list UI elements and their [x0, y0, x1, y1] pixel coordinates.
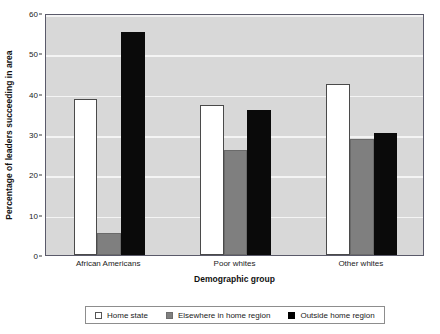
chart-legend: Home stateElsewhere in home regionOutsid…: [85, 306, 385, 324]
bar: [374, 133, 398, 255]
y-axis-tick-mark: [39, 14, 42, 15]
y-axis-tick-label: 50: [29, 50, 38, 59]
legend-entry: Outside home region: [288, 311, 374, 320]
y-axis-tick-label: 30: [29, 131, 38, 140]
legend-label: Home state: [107, 311, 148, 320]
bar-group: [326, 15, 397, 255]
y-axis-tick-labels: 0102030405060: [18, 14, 42, 256]
bar: [350, 139, 374, 255]
y-axis-tick-mark: [39, 215, 42, 216]
y-axis-tick-label: 40: [29, 90, 38, 99]
x-axis-tick-label: African Americans: [76, 259, 140, 268]
legend-label: Elsewhere in home region: [178, 311, 271, 320]
x-axis-tick-label: Other whites: [338, 259, 383, 268]
x-axis-tick-label: Poor whites: [214, 259, 256, 268]
legend-entry: Elsewhere in home region: [166, 311, 271, 320]
x-axis-tick-labels: African AmericansPoor whitesOther whites: [45, 259, 424, 273]
legend-swatch-icon: [288, 312, 295, 319]
y-axis-tick-mark: [39, 54, 42, 55]
y-axis-tick-label: 20: [29, 171, 38, 180]
bar: [247, 110, 271, 255]
y-axis-tick-mark: [39, 94, 42, 95]
bar: [121, 32, 145, 255]
y-axis-tick-label: 0: [34, 252, 38, 261]
y-axis-title-text: Percentage of leaders succeeding in area: [4, 50, 14, 219]
legend-entry: Home state: [95, 311, 148, 320]
legend-swatch-icon: [166, 312, 173, 319]
y-axis-tick-mark: [39, 135, 42, 136]
legend-label: Outside home region: [300, 311, 374, 320]
bar: [97, 233, 121, 255]
x-axis-title: Demographic group: [45, 274, 424, 284]
y-axis-tick-mark: [39, 175, 42, 176]
bar: [224, 150, 248, 255]
bars-layer: [46, 15, 423, 255]
bar-group: [74, 15, 145, 255]
bar: [200, 105, 224, 255]
bar-group: [200, 15, 271, 255]
bar-chart: Percentage of leaders succeeding in area…: [0, 0, 440, 334]
y-axis-tick-label: 60: [29, 10, 38, 19]
bar: [326, 84, 350, 255]
plot-area: [45, 14, 424, 256]
legend-swatch-icon: [95, 312, 102, 319]
bar: [74, 99, 98, 255]
y-axis-tick-label: 10: [29, 211, 38, 220]
y-axis-tick-mark: [39, 256, 42, 257]
y-axis-title: Percentage of leaders succeeding in area: [0, 0, 18, 270]
